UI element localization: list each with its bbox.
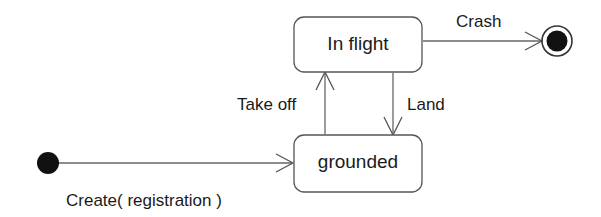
transition-land[interactable] bbox=[384, 73, 402, 135]
transition-land-label: Land bbox=[407, 95, 445, 114]
transition-take-off-label: Take off bbox=[237, 95, 297, 114]
initial-state-node[interactable] bbox=[37, 152, 59, 174]
final-state-node[interactable] bbox=[542, 26, 572, 56]
initial-state-dot-icon bbox=[37, 152, 59, 174]
state-grounded[interactable]: grounded bbox=[294, 135, 422, 192]
state-in-flight-label: In flight bbox=[327, 33, 389, 54]
state-diagram-canvas: In flight grounded Create( registration … bbox=[0, 0, 601, 217]
state-diagram-svg: In flight grounded Create( registration … bbox=[0, 0, 601, 217]
final-state-dot-icon bbox=[547, 31, 568, 52]
transition-take-off[interactable] bbox=[316, 72, 334, 134]
transition-create-label: Create( registration ) bbox=[66, 191, 222, 210]
transition-crash[interactable] bbox=[423, 32, 542, 50]
state-grounded-label: grounded bbox=[318, 151, 398, 172]
transition-crash-label: Crash bbox=[456, 12, 501, 31]
state-in-flight[interactable]: In flight bbox=[294, 17, 422, 72]
transition-create[interactable] bbox=[59, 154, 293, 172]
